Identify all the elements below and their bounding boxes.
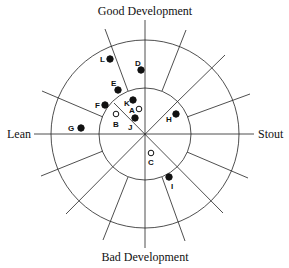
data-point-c: C bbox=[148, 150, 154, 167]
spoke-lower-right bbox=[162, 177, 185, 241]
data-point-j: J bbox=[128, 115, 138, 132]
data-point-i: I bbox=[166, 174, 173, 191]
data-point-d: D bbox=[135, 59, 144, 73]
filled-marker-icon bbox=[132, 115, 138, 121]
point-label: C bbox=[148, 158, 154, 167]
spoke-left-lower bbox=[41, 151, 103, 176]
point-label: F bbox=[95, 101, 100, 110]
data-point-g: G bbox=[68, 124, 84, 133]
diagonal-spoke-ne-sw bbox=[66, 103, 176, 214]
spoke-left-upper bbox=[42, 91, 103, 117]
filled-marker-icon bbox=[130, 97, 136, 103]
spoke-ne-outer bbox=[176, 55, 225, 103]
open-marker-icon bbox=[148, 150, 154, 156]
point-label: L bbox=[100, 55, 105, 64]
spoke-upper-right-1 bbox=[162, 30, 186, 91]
open-marker-icon bbox=[113, 111, 119, 117]
point-label: D bbox=[135, 59, 141, 68]
data-point-a: A bbox=[129, 106, 142, 115]
point-label: E bbox=[111, 79, 117, 88]
spoke-right-upper bbox=[187, 94, 250, 117]
development-chart: Good Development Bad Development Lean St… bbox=[0, 0, 289, 268]
axis-label-good-development: Good Development bbox=[98, 4, 193, 18]
filled-marker-icon bbox=[102, 102, 108, 108]
data-point-b: B bbox=[113, 111, 119, 129]
point-label: B bbox=[113, 120, 119, 129]
data-point-e: E bbox=[111, 79, 121, 93]
data-points: LDEFKABJGHCI bbox=[68, 55, 179, 191]
spoke-lower-left bbox=[103, 177, 128, 240]
point-label: J bbox=[128, 123, 132, 132]
filled-marker-icon bbox=[173, 111, 179, 117]
point-label: I bbox=[171, 182, 173, 191]
data-point-h: H bbox=[166, 111, 179, 124]
filled-marker-icon bbox=[107, 56, 113, 62]
axis-label-lean: Lean bbox=[7, 127, 31, 141]
open-marker-icon bbox=[136, 106, 142, 112]
spoke-right-lower bbox=[187, 152, 248, 178]
filled-marker-icon bbox=[166, 174, 172, 180]
point-label: G bbox=[68, 124, 74, 133]
axis-label-stout: Stout bbox=[258, 127, 284, 141]
axis-label-bad-development: Bad Development bbox=[102, 250, 190, 264]
point-label: A bbox=[129, 106, 135, 115]
filled-marker-icon bbox=[78, 125, 84, 131]
data-point-l: L bbox=[100, 55, 113, 64]
point-label: H bbox=[166, 115, 172, 124]
